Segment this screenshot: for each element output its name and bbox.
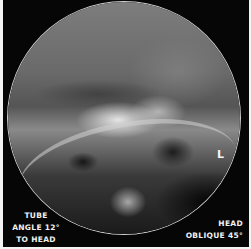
- xray-field: [8, 2, 240, 234]
- head-oblique-line2: OBLIQUE 45°: [173, 230, 243, 242]
- side-marker-label: L: [217, 148, 224, 161]
- tube-angle-label: TUBE ANGLE 12° TO HEAD: [10, 210, 62, 246]
- tube-angle-line1: TUBE: [10, 210, 62, 222]
- radiograph-figure: L TUBE ANGLE 12° TO HEAD HEAD OBLIQUE 45…: [0, 0, 251, 249]
- left-border: [0, 0, 3, 249]
- right-border: [249, 0, 251, 249]
- head-oblique-label: HEAD OBLIQUE 45°: [173, 218, 243, 242]
- tube-angle-line3: TO HEAD: [10, 234, 62, 246]
- tube-angle-line2: ANGLE 12°: [10, 222, 62, 234]
- head-oblique-line1: HEAD: [173, 218, 243, 230]
